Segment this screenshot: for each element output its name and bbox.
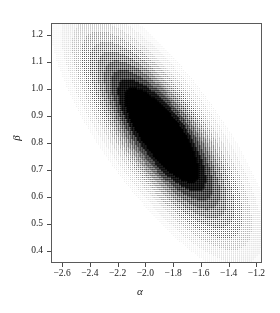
x-tick: [229, 263, 230, 267]
x-axis-title: α: [0, 285, 280, 297]
y-tick: [47, 197, 51, 198]
y-tick: [47, 89, 51, 90]
plot-area: [51, 23, 262, 263]
x-tick: [173, 263, 174, 267]
y-tick: [47, 116, 51, 117]
y-axis-title: β: [10, 118, 22, 158]
x-tick: [118, 263, 119, 267]
x-tick: [145, 263, 146, 267]
x-tick: [90, 263, 91, 267]
x-tick-label: −1.2: [239, 269, 273, 279]
y-tick-label: 0.6: [13, 192, 43, 202]
y-tick-label: 1.1: [13, 57, 43, 67]
y-tick: [47, 35, 51, 36]
x-tick: [201, 263, 202, 267]
y-tick: [47, 251, 51, 252]
y-tick-label: 0.7: [13, 165, 43, 175]
y-tick-label: 0.5: [13, 219, 43, 229]
y-tick: [47, 62, 51, 63]
y-tick: [47, 170, 51, 171]
y-tick-label: 0.4: [13, 246, 43, 256]
density-plot-figure: 0.40.50.60.70.80.91.01.11.2 −2.6−2.4−2.2…: [0, 0, 280, 313]
y-tick: [47, 143, 51, 144]
density-heatmap: [52, 24, 261, 262]
x-tick: [62, 263, 63, 267]
y-tick-label: 1.2: [13, 30, 43, 40]
y-tick: [47, 224, 51, 225]
y-tick-label: 1.0: [13, 84, 43, 94]
x-tick: [256, 263, 257, 267]
